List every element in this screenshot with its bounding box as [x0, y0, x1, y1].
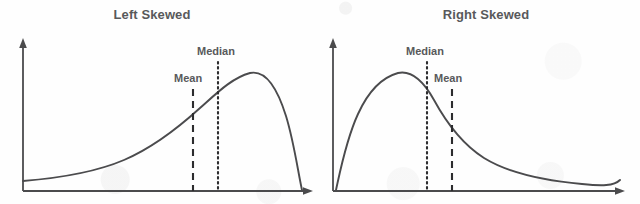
left-skewed-plot	[0, 0, 320, 204]
mean-label-left: Mean	[174, 72, 202, 84]
right-skewed-plot	[320, 0, 640, 204]
y-axis-left	[19, 38, 27, 191]
mean-label-right: Mean	[434, 72, 462, 84]
median-label-right: Median	[406, 45, 444, 57]
chart-panel-left-skewed: Left Skewed Mean Median	[0, 0, 320, 204]
figure-canvas: Left Skewed Mean Median Right Skewed	[0, 0, 640, 204]
x-axis-right	[333, 187, 625, 195]
y-axis-right	[329, 38, 337, 191]
median-label-left: Median	[197, 45, 235, 57]
left-skewed-curve	[23, 73, 302, 190]
right-skewed-curve	[336, 73, 620, 190]
x-axis-left	[23, 187, 313, 195]
chart-panel-right-skewed: Right Skewed Median Mean	[320, 0, 640, 204]
